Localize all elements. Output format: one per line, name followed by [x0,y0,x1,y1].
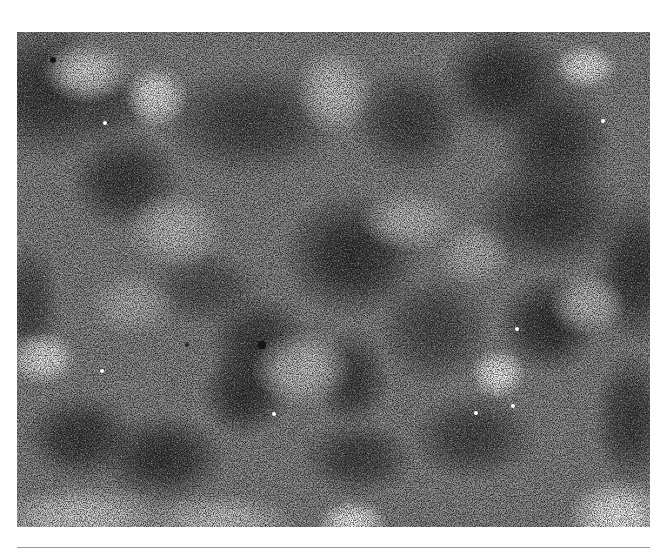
speck [474,411,478,415]
bottom-rule-divider [17,547,650,548]
speck [511,404,515,408]
speck [601,119,605,123]
specks-layer [17,32,650,527]
micrograph-image [17,32,650,527]
speck [100,369,104,373]
speck [185,343,189,347]
speck [515,327,519,331]
speck [272,412,276,416]
speck [50,57,56,63]
speck [258,341,266,349]
speck [103,121,107,125]
